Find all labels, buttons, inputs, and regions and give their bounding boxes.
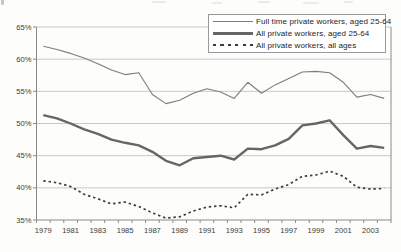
legend-label: All private workers, aged 25-64: [256, 29, 369, 38]
x-tick-label: 1991: [198, 226, 215, 235]
x-tick-label: 2001: [335, 226, 352, 235]
x-tick-label: 1993: [226, 226, 243, 235]
y-tick-label: 50%: [16, 119, 31, 128]
thin-solid-line-swatch-icon: [213, 21, 253, 22]
thick-solid-line-swatch-icon: [213, 32, 253, 35]
y-tick-label: 65%: [16, 23, 31, 32]
dotted-line-swatch-icon: [213, 44, 253, 46]
chart-figure: 65%60%55%50%45%40%35%1979198119831985198…: [0, 0, 401, 252]
x-tick-label: 1995: [253, 226, 270, 235]
legend-label: All private workers, all ages: [256, 41, 356, 50]
x-tick-label: 1987: [144, 226, 161, 235]
x-tick-label: 1979: [35, 226, 52, 235]
legend-item-fulltime-25-64: Full time private workers, aged 25-64: [209, 16, 385, 28]
x-tick-label: 1989: [171, 226, 188, 235]
series-line-2: [43, 171, 384, 218]
y-tick-label: 35%: [16, 216, 31, 225]
y-tick-label: 45%: [16, 151, 31, 160]
x-tick-label: 1985: [117, 226, 134, 235]
series-line-0: [43, 46, 384, 103]
y-tick-label: 60%: [16, 55, 31, 64]
x-tick-label: 1997: [280, 226, 297, 235]
legend-label: Full time private workers, aged 25-64: [256, 17, 391, 26]
x-tick-label: 1999: [308, 226, 325, 235]
y-tick-label: 40%: [16, 183, 31, 192]
x-tick-label: 1981: [62, 226, 79, 235]
chart-legend: Full time private workers, aged 25-64 Al…: [208, 14, 386, 53]
legend-item-all-25-64: All private workers, aged 25-64: [209, 28, 385, 40]
x-tick-label: 1983: [89, 226, 106, 235]
series-line-1: [43, 115, 384, 165]
y-tick-label: 55%: [16, 87, 31, 96]
legend-item-all-ages: All private workers, all ages: [209, 39, 385, 51]
x-tick-label: 2003: [362, 226, 379, 235]
